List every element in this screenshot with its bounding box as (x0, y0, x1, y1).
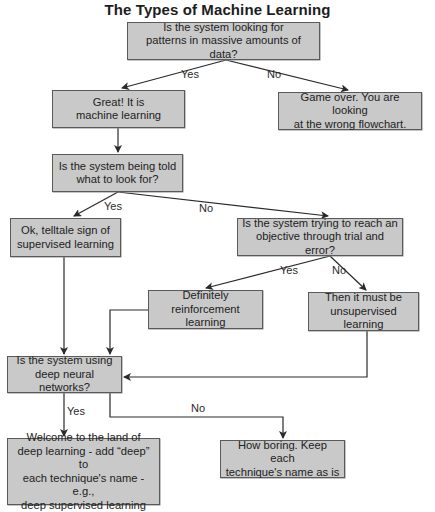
node-unsupervised: Then it must be unsupervised learning (308, 292, 419, 331)
node-machine-learning: Great! It is machine learning (52, 90, 185, 128)
node-deep-question: Is the system using deep neural networks… (7, 356, 122, 393)
node-keep-names: How boring. Keep each technique's name a… (220, 440, 345, 478)
edge-label-no: No (191, 402, 205, 414)
node-text: Great! It is machine learning (76, 96, 161, 123)
node-text: Game over. You are looking at the wrong … (283, 91, 417, 132)
node-text: Ok, telltale sign of supervised learning (17, 224, 114, 251)
node-text: Is the system trying to reach an objecti… (242, 217, 398, 258)
node-text: Is the system using deep neural networks… (12, 354, 117, 395)
node-text: Then it must be unsupervised learning (313, 291, 414, 332)
edge-label-yes: Yes (104, 200, 122, 212)
edge-label-yes: Yes (67, 405, 85, 417)
node-deep-learning: Welcome to the land of deep learning - a… (7, 438, 160, 505)
node-reinforcement: Definitely reinforcement learning (148, 290, 263, 329)
node-text: Is the system looking for patterns in ma… (132, 21, 315, 62)
node-game-over: Game over. You are looking at the wrong … (278, 92, 422, 130)
node-supervised: Ok, telltale sign of supervised learning (10, 218, 121, 257)
node-text: Welcome to the land of deep learning - a… (12, 431, 155, 512)
edge-label-yes: Yes (181, 68, 199, 80)
edge-label-no: No (199, 202, 213, 214)
edge-label-yes: Yes (280, 264, 298, 276)
edge-label-no: No (267, 68, 281, 80)
node-told-question: Is the system being told what to look fo… (52, 154, 183, 192)
node-text: How boring. Keep each technique's name a… (225, 439, 340, 480)
node-text: Definitely reinforcement learning (153, 289, 258, 330)
node-trial-error-question: Is the system trying to reach an objecti… (237, 218, 403, 256)
node-patterns-question: Is the system looking for patterns in ma… (127, 22, 320, 60)
edge-label-no: No (332, 264, 346, 276)
node-text: Is the system being told what to look fo… (59, 160, 177, 187)
